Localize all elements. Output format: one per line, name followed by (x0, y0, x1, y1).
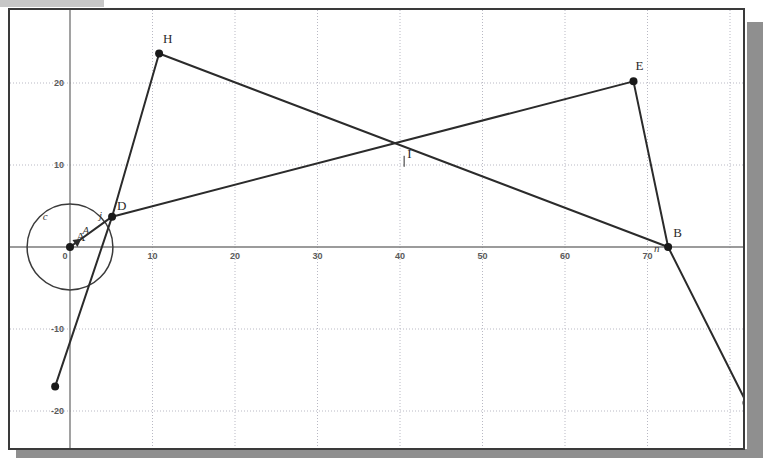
grid-layer (10, 10, 743, 448)
window-shadow-bottom (16, 449, 763, 458)
point-J[interactable] (743, 399, 744, 407)
point-B[interactable] (664, 243, 672, 251)
x-tick-label: 50 (477, 251, 487, 261)
point-labels-layer: ADHEBJI (76, 31, 743, 398)
y-tick-label: 20 (54, 78, 64, 88)
segment-B-J[interactable] (668, 247, 743, 403)
point-label-B: B (673, 225, 682, 240)
label-A: A (81, 224, 89, 236)
window-title-strip (0, 0, 104, 7)
segments-layer[interactable] (55, 53, 743, 402)
point-label-H: H (163, 31, 172, 46)
point-K[interactable] (51, 382, 59, 390)
graphics-view[interactable]: 102030405060700-20-101020 ADHEBJI cjAn (8, 8, 745, 450)
point-label-I: I (407, 146, 411, 161)
x-tick-label: 20 (230, 251, 240, 261)
y-tick-label: -10 (51, 324, 64, 334)
y-tick-label: -20 (51, 406, 64, 416)
x-tick-label: 40 (395, 251, 405, 261)
point-H[interactable] (155, 49, 163, 57)
point-label-D: D (117, 198, 126, 213)
segment-D-E[interactable] (112, 81, 633, 216)
label-n: n (654, 242, 660, 254)
point-label-E: E (635, 58, 643, 73)
x-tick-label: 70 (642, 251, 652, 261)
points-layer[interactable] (51, 49, 743, 406)
point-D[interactable] (108, 213, 116, 221)
x-tick-label: 60 (560, 251, 570, 261)
y-tick-label: 10 (54, 160, 64, 170)
window-shadow-right (747, 22, 763, 458)
segment-E-B[interactable] (633, 81, 668, 247)
origin-tick-label: 0 (62, 251, 67, 261)
point-E[interactable] (629, 77, 637, 85)
label-c: c (43, 210, 48, 222)
x-tick-label: 10 (147, 251, 157, 261)
geometry-canvas[interactable]: 102030405060700-20-101020 ADHEBJI cjAn (10, 10, 743, 448)
x-tick-label: 30 (312, 251, 322, 261)
axes-layer (10, 10, 743, 448)
application-window: 102030405060700-20-101020 ADHEBJI cjAn (0, 0, 763, 458)
segment-H-D[interactable] (112, 53, 159, 216)
point-A[interactable] (66, 243, 74, 251)
